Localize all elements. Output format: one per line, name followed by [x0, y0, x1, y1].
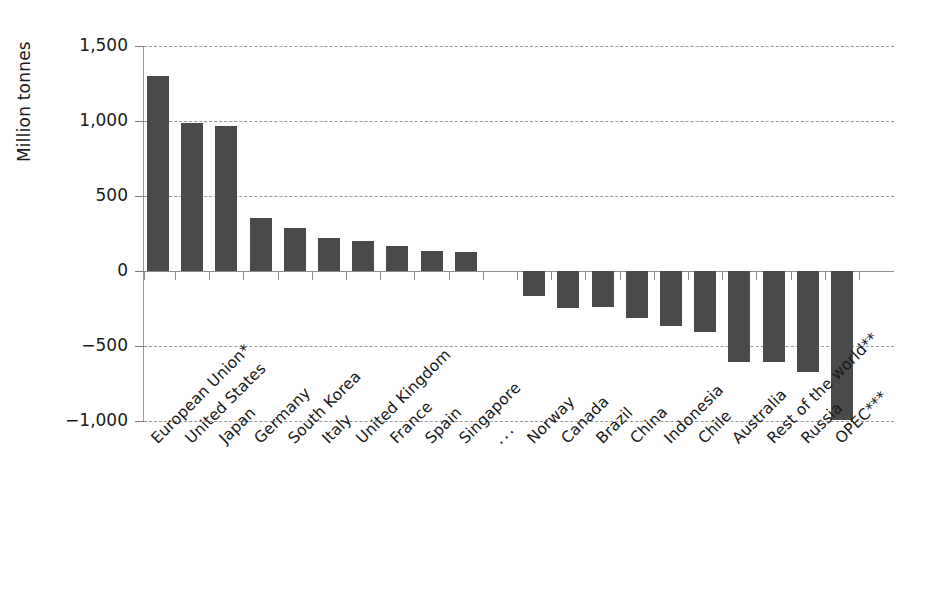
bar	[763, 271, 785, 362]
x-tick-mark	[414, 271, 415, 280]
x-tick-mark	[859, 271, 860, 280]
bar	[284, 228, 306, 272]
bar	[523, 271, 545, 296]
y-tick-mark	[135, 346, 144, 347]
x-tick-mark	[620, 271, 621, 280]
bar	[626, 271, 648, 318]
x-tick-mark	[449, 271, 450, 280]
y-axis-title: Million tonnes	[14, 0, 46, 162]
x-tick-mark	[654, 271, 655, 280]
bar	[797, 271, 819, 372]
bar	[215, 126, 237, 271]
x-tick-mark	[312, 271, 313, 280]
bar	[250, 218, 272, 271]
x-tick-mark	[380, 271, 381, 280]
y-tick-mark	[135, 121, 144, 122]
bar	[455, 252, 477, 271]
x-tick-mark	[756, 271, 757, 280]
bar	[318, 238, 340, 271]
x-tick-mark	[688, 271, 689, 280]
bar	[181, 123, 203, 271]
x-tick-mark	[585, 271, 586, 280]
x-tick-mark	[278, 271, 279, 280]
bar	[421, 251, 443, 271]
x-tick-mark	[791, 271, 792, 280]
y-tick-mark	[135, 196, 144, 197]
x-tick-mark	[517, 271, 518, 280]
bar-chart: Million tonnes 1,5001,0005000−500−1,000 …	[0, 0, 927, 589]
x-tick-mark	[144, 271, 145, 280]
bar	[831, 271, 853, 420]
bar	[660, 271, 682, 326]
bar	[147, 76, 169, 271]
x-tick-mark	[551, 271, 552, 280]
y-tick-label: 1,500	[18, 35, 128, 55]
x-tick-mark	[243, 271, 244, 280]
x-axis-label: ...	[490, 419, 518, 447]
y-tick-mark	[135, 271, 144, 272]
bar	[592, 271, 614, 307]
x-tick-mark	[825, 271, 826, 280]
bar	[728, 271, 750, 362]
y-tick-label: 0	[18, 260, 128, 280]
y-tick-mark	[135, 46, 144, 47]
gridline	[144, 121, 894, 122]
x-tick-mark	[209, 271, 210, 280]
bar	[557, 271, 579, 308]
bar	[694, 271, 716, 332]
gridline	[144, 46, 894, 47]
bar	[386, 246, 408, 271]
x-tick-mark	[722, 271, 723, 280]
y-tick-label: −500	[18, 335, 128, 355]
bar	[352, 241, 374, 271]
y-tick-mark	[135, 421, 144, 422]
y-tick-label: −1,000	[18, 410, 128, 430]
x-tick-mark	[346, 271, 347, 280]
gridline	[144, 196, 894, 197]
x-tick-mark	[483, 271, 484, 280]
y-tick-label: 1,000	[18, 110, 128, 130]
x-tick-mark	[175, 271, 176, 280]
y-tick-label: 500	[18, 185, 128, 205]
